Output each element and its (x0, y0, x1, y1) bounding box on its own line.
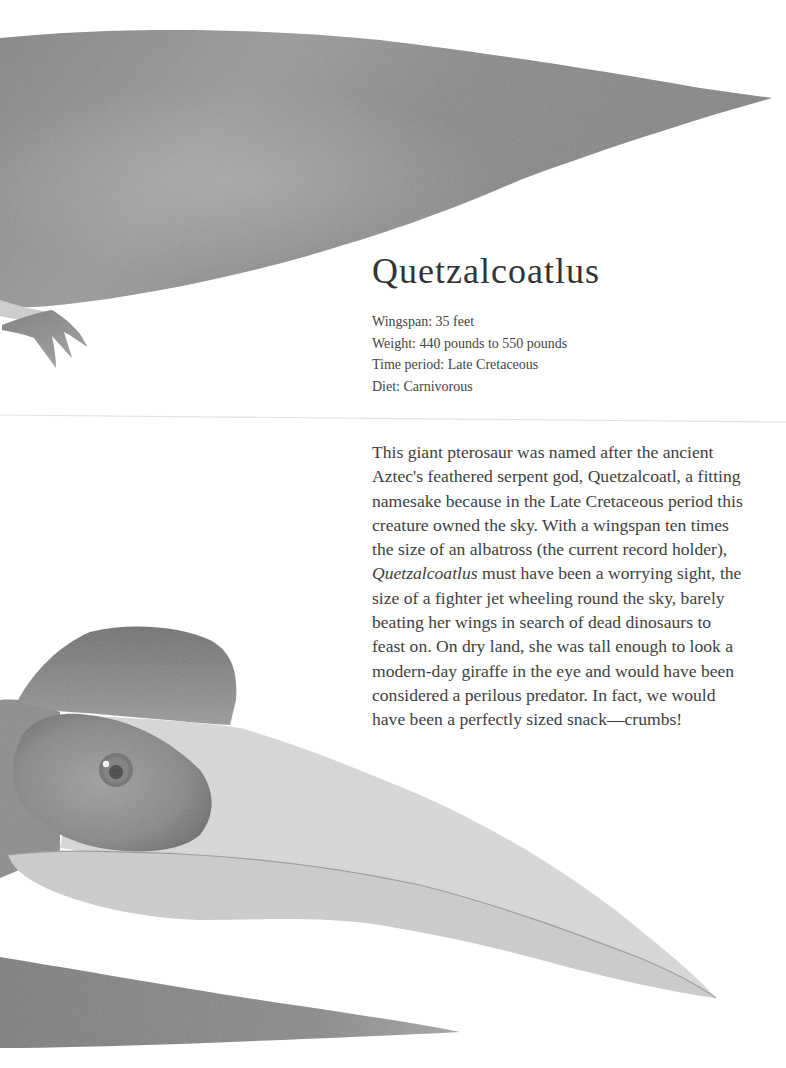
description-line-rest: must have been a worrying sight, the (478, 563, 742, 583)
fact-weight: Weight: 440 pounds to 550 pounds (372, 333, 567, 355)
description-line: size of a fighter jet wheeling round the… (372, 586, 772, 610)
page-fold-line (0, 414, 786, 424)
fact-time-period: Time period: Late Cretaceous (372, 354, 567, 376)
description-line: namesake because in the Late Cretaceous … (372, 489, 772, 513)
species-title: Quetzalcoatlus (372, 250, 600, 292)
description-line: the size of an albatross (the current re… (372, 537, 772, 561)
description-line: have been a perfectly sized snack—crumbs… (372, 707, 772, 731)
species-description: This giant pterosaur was named after the… (372, 440, 772, 732)
description-line: creature owned the sky. With a wingspan … (372, 513, 772, 537)
description-line: Quetzalcoatlus must have been a worrying… (372, 561, 772, 585)
description-line: feast on. On dry land, she was tall enou… (372, 634, 772, 658)
description-line: beating her wings in search of dead dino… (372, 610, 772, 634)
description-line: Aztec's feathered serpent god, Quetzalco… (372, 464, 772, 488)
species-facts: Wingspan: 35 feet Weight: 440 pounds to … (372, 311, 567, 397)
species-name-italic: Quetzalcoatlus (372, 563, 478, 583)
fact-diet: Diet: Carnivorous (372, 376, 567, 398)
description-line: considered a perilous predator. In fact,… (372, 683, 772, 707)
description-line: modern-day giraffe in the eye and would … (372, 659, 772, 683)
fact-wingspan: Wingspan: 35 feet (372, 311, 567, 333)
lower-wing-illustration (0, 957, 460, 1048)
description-line: This giant pterosaur was named after the… (372, 440, 772, 464)
